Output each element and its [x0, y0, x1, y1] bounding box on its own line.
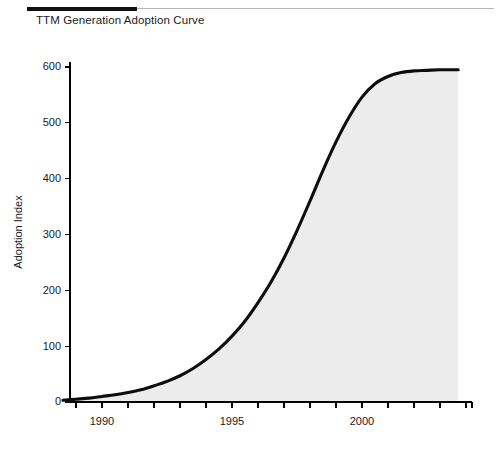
y-axis-title: Adoption Index	[12, 195, 24, 269]
x-axis-tick-label: 1990	[90, 415, 114, 427]
y-axis-tick-label: 200	[43, 284, 61, 296]
y-axis-tick-label: 500	[43, 116, 61, 128]
y-axis-tick-label: 600	[43, 60, 61, 72]
y-axis-tick-label: 400	[43, 172, 61, 184]
chart-figure: TTM Generation Adoption Curve 0100200300…	[0, 0, 497, 454]
x-axis-tick-label: 2000	[350, 415, 374, 427]
area-fill	[63, 70, 458, 402]
y-axis-tick-label: 0	[55, 395, 61, 407]
x-axis-tick-label: 1995	[220, 415, 244, 427]
y-axis-tick-label: 300	[43, 228, 61, 240]
chart-plot-area: 0100200300400500600199019952000Adoption …	[0, 0, 497, 454]
y-axis-tick-label: 100	[43, 340, 61, 352]
